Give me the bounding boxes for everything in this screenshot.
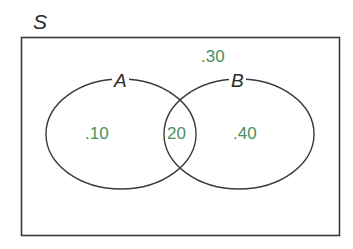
a-only-probability: .10 (85, 125, 109, 142)
outside-probability: .30 (201, 48, 225, 65)
intersection-probability: 20 (167, 125, 186, 142)
set-a-label: A (112, 71, 129, 90)
universe-label: S (31, 11, 49, 32)
b-only-probability: .40 (233, 125, 257, 142)
set-b-label: B (229, 71, 246, 90)
